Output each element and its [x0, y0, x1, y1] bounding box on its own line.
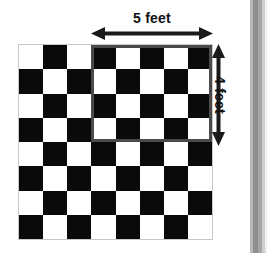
board-square-r3-c7	[188, 118, 212, 142]
vertical-dimension-label: 4 feet	[212, 64, 228, 126]
board-square-r7-c5	[140, 215, 164, 239]
board-square-r1-c1	[43, 69, 67, 93]
board-square-r6-c3	[91, 191, 115, 215]
board-square-r5-c1	[43, 166, 67, 190]
board-square-r3-c3	[91, 118, 115, 142]
board-square-r7-c2	[67, 215, 91, 239]
board-square-r3-c0	[19, 118, 43, 142]
board-square-r2-c7	[188, 94, 212, 118]
diagram-canvas: 5 feet 4 feet	[0, 0, 267, 253]
board-square-r0-c7	[188, 45, 212, 69]
board-square-r1-c2	[67, 69, 91, 93]
board-square-r5-c0	[19, 166, 43, 190]
board-square-r6-c2	[67, 191, 91, 215]
page-edge-strip	[244, 0, 267, 253]
board-square-r7-c4	[116, 215, 140, 239]
board-square-r0-c4	[116, 45, 140, 69]
board-square-r5-c5	[140, 166, 164, 190]
page-edge-band-5	[265, 0, 267, 253]
board-square-r6-c7	[188, 191, 212, 215]
board-square-r1-c3	[91, 69, 115, 93]
board-square-r1-c4	[116, 69, 140, 93]
board-square-r6-c6	[164, 191, 188, 215]
board-square-r7-c0	[19, 215, 43, 239]
board-square-r2-c4	[116, 94, 140, 118]
board-square-r5-c6	[164, 166, 188, 190]
board-square-r3-c2	[67, 118, 91, 142]
board-square-r6-c1	[43, 191, 67, 215]
board-square-r2-c6	[164, 94, 188, 118]
board-square-r5-c3	[91, 166, 115, 190]
board-square-r5-c4	[116, 166, 140, 190]
board-square-r4-c1	[43, 142, 67, 166]
checkerboard	[19, 45, 212, 239]
board-square-r2-c3	[91, 94, 115, 118]
board-square-r6-c0	[19, 191, 43, 215]
horizontal-dimension-label: 5 feet	[91, 10, 213, 26]
board-square-r0-c2	[67, 45, 91, 69]
board-square-r4-c2	[67, 142, 91, 166]
board-square-r4-c3	[91, 142, 115, 166]
board-square-r2-c5	[140, 94, 164, 118]
board-square-r4-c0	[19, 142, 43, 166]
board-square-r1-c6	[164, 69, 188, 93]
board-square-r4-c7	[188, 142, 212, 166]
board-square-r3-c6	[164, 118, 188, 142]
board-square-r2-c2	[67, 94, 91, 118]
board-square-r1-c7	[188, 69, 212, 93]
board-square-r5-c7	[188, 166, 212, 190]
board-square-r3-c1	[43, 118, 67, 142]
board-square-r1-c5	[140, 69, 164, 93]
board-square-r0-c0	[19, 45, 43, 69]
board-square-r7-c6	[164, 215, 188, 239]
board-square-r7-c7	[188, 215, 212, 239]
board-square-r1-c0	[19, 69, 43, 93]
board-square-r3-c4	[116, 118, 140, 142]
board-square-r2-c1	[43, 94, 67, 118]
board-square-r4-c4	[116, 142, 140, 166]
board-square-r4-c6	[164, 142, 188, 166]
board-square-r0-c5	[140, 45, 164, 69]
board-square-r3-c5	[140, 118, 164, 142]
board-square-r0-c3	[91, 45, 115, 69]
board-square-r7-c1	[43, 215, 67, 239]
board-square-r0-c6	[164, 45, 188, 69]
board-square-r0-c1	[43, 45, 67, 69]
board-square-r4-c5	[140, 142, 164, 166]
board-square-r6-c5	[140, 191, 164, 215]
horizontal-dimension-arrow	[91, 27, 213, 40]
board-square-r5-c2	[67, 166, 91, 190]
board-square-r2-c0	[19, 94, 43, 118]
board-square-r6-c4	[116, 191, 140, 215]
board-square-r7-c3	[91, 215, 115, 239]
